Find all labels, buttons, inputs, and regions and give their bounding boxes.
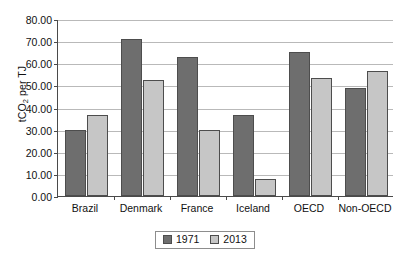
x-axis-tick-mark (170, 196, 171, 200)
bar-denmark-2013 (143, 80, 164, 196)
bar-brazil-1971 (65, 130, 86, 196)
y-axis-tick-label: 70.00 (8, 37, 52, 48)
y-axis-tick-label: 80.00 (8, 15, 52, 26)
bar-iceland-2013 (255, 179, 276, 196)
x-axis-tick-label: Denmark (120, 201, 163, 215)
bar-group (170, 20, 226, 196)
bars-layer (58, 20, 393, 196)
bar-chart: tCO2 per TJ 80.0070.0060.0050.0040.0030.… (0, 0, 408, 261)
y-axis-tick-labels: 80.0070.0060.0050.0040.0030.0020.0010.00… (8, 20, 52, 197)
y-axis-tick-mark (54, 197, 58, 198)
y-axis-tick-label: 0.00 (8, 192, 52, 203)
bar-non-oecd-2013 (367, 71, 388, 196)
bar-non-oecd-1971 (345, 88, 366, 196)
bar-group (226, 20, 282, 196)
legend-label: 2013 (223, 234, 246, 245)
x-axis-tick-labels: BrazilDenmarkFranceIcelandOECDNon-OECD (57, 201, 393, 217)
bar-iceland-1971 (233, 115, 254, 196)
bar-france-2013 (199, 130, 220, 196)
x-axis-tick-label: France (181, 201, 214, 215)
legend: 19712013 (155, 231, 255, 249)
x-axis-tick-mark (114, 196, 115, 200)
bar-oecd-1971 (289, 52, 310, 196)
plot-area (57, 20, 393, 197)
bar-group (114, 20, 170, 196)
bar-group (282, 20, 338, 196)
x-axis-tick-mark (338, 196, 339, 200)
bar-group (58, 20, 114, 196)
x-axis-tick-label: OECD (294, 201, 324, 215)
y-axis-tick-label: 30.00 (8, 125, 52, 136)
x-axis-tick-label: Brazil (72, 201, 98, 215)
legend-label: 1971 (176, 234, 199, 245)
legend-entry-1971[interactable]: 1971 (163, 234, 199, 245)
x-axis-tick-label: Iceland (236, 201, 270, 215)
y-axis-tick-label: 20.00 (8, 148, 52, 159)
y-axis-tick-label: 10.00 (8, 170, 52, 181)
bar-brazil-2013 (87, 115, 108, 196)
x-axis-tick-mark (226, 196, 227, 200)
y-axis-tick-label: 40.00 (8, 103, 52, 114)
legend-swatch-icon (210, 235, 219, 244)
bar-group (338, 20, 394, 196)
legend-swatch-icon (163, 235, 172, 244)
x-axis-tick-mark (282, 196, 283, 200)
bar-denmark-1971 (121, 39, 142, 196)
legend-entry-2013[interactable]: 2013 (210, 234, 246, 245)
y-axis-tick-label: 50.00 (8, 81, 52, 92)
bar-oecd-2013 (311, 78, 332, 196)
y-axis-tick-label: 60.00 (8, 59, 52, 70)
bar-france-1971 (177, 57, 198, 196)
x-axis-tick-label: Non-OECD (338, 201, 391, 215)
